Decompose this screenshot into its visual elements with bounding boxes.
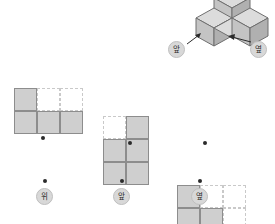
- label-group-top: 위: [36, 179, 53, 205]
- view-side-dot: [203, 141, 207, 145]
- view-front-grid: [103, 116, 149, 185]
- grid-cell-filled[interactable]: [177, 208, 200, 224]
- label-side-dot: [198, 179, 202, 183]
- grid-cell-filled[interactable]: [200, 208, 223, 224]
- callout-front-label: 앞: [168, 41, 185, 58]
- callout-side-label: 옆: [250, 41, 267, 58]
- label-top-dot: [43, 179, 47, 183]
- grid-cell-empty[interactable]: [223, 185, 246, 208]
- label-front: 앞: [113, 188, 130, 205]
- view-front-dot: [128, 141, 132, 145]
- grid-cell-empty[interactable]: [223, 208, 246, 224]
- label-side: 옆: [191, 188, 208, 205]
- worksheet-page: 앞 옆 위 앞 옆: [0, 0, 275, 224]
- grid-cell-filled[interactable]: [60, 111, 83, 134]
- grid-cell-filled[interactable]: [14, 88, 37, 111]
- grid-cell-filled[interactable]: [103, 139, 126, 162]
- grid-cell-filled[interactable]: [14, 111, 37, 134]
- arrow-to-side-face-icon: [228, 33, 252, 45]
- grid-cell-filled[interactable]: [126, 116, 149, 139]
- view-top-grid: [14, 88, 83, 134]
- label-front-dot: [120, 179, 124, 183]
- view-side-grid: [177, 185, 246, 224]
- grid-cell-filled[interactable]: [37, 111, 60, 134]
- grid-cell-empty[interactable]: [37, 88, 60, 111]
- grid-cell-empty[interactable]: [60, 88, 83, 111]
- label-group-front: 앞: [113, 179, 130, 205]
- arrow-to-front-face-icon: [186, 33, 202, 45]
- grid-cell-empty[interactable]: [103, 116, 126, 139]
- view-top-dot: [41, 136, 45, 140]
- label-top: 위: [36, 188, 53, 205]
- label-group-side: 옆: [191, 179, 208, 205]
